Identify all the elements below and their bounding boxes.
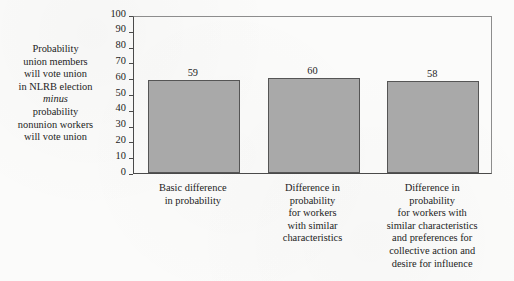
y-axis-caption-line: in NLRB election <box>2 81 109 94</box>
y-axis-tick-label: 0 <box>121 167 126 177</box>
y-axis-caption-line: nonunion workers <box>2 119 109 132</box>
y-axis-tick-label: 40 <box>116 103 126 113</box>
chart-page: Probabilityunion memberswill vote unioni… <box>0 0 514 281</box>
y-axis-caption-line: will vote union <box>2 68 109 81</box>
y-axis-tick-label: 50 <box>116 88 126 98</box>
x-axis-category-label-line: and preferences for <box>352 232 512 245</box>
x-axis-category-label-line: desire for influence <box>352 258 512 271</box>
y-axis-tick-label: 30 <box>116 119 126 129</box>
plot-area <box>133 16 492 174</box>
bar-value-label: 60 <box>267 66 359 76</box>
x-axis-category-label-line: probability <box>352 195 512 208</box>
bar <box>268 78 360 173</box>
x-axis-category-label-line: for workers with <box>352 207 512 220</box>
y-axis-caption-line: minus <box>2 93 109 106</box>
y-axis-ticks: 0102030405060708090100 <box>101 16 133 174</box>
y-axis-tick-label: 80 <box>116 40 126 50</box>
y-axis-tick-label: 70 <box>116 56 126 66</box>
x-axis-category-label-line: Difference in <box>352 182 512 195</box>
y-axis-caption: Probabilityunion memberswill vote unioni… <box>2 43 109 144</box>
y-axis-tick-mark <box>129 174 133 175</box>
bar-value-label: 58 <box>386 69 478 79</box>
x-axis-category-label-line: collective action and <box>352 245 512 258</box>
bar <box>148 80 240 173</box>
y-axis-caption-line: union members <box>2 56 109 69</box>
x-axis-category-label-line: similar characteristics <box>352 220 512 233</box>
x-axis-category-label: Difference inprobabilityfor workers with… <box>352 182 512 270</box>
y-axis-caption-line: probability <box>2 106 109 119</box>
bar-value-label: 59 <box>147 68 239 78</box>
y-axis-tick-label: 100 <box>110 9 126 19</box>
y-axis-tick-label: 20 <box>116 135 126 145</box>
y-axis-tick-label: 60 <box>116 72 126 82</box>
y-axis-caption-line: will vote union <box>2 131 109 144</box>
y-axis-tick-label: 10 <box>116 151 126 161</box>
y-axis-tick-label: 90 <box>116 24 126 34</box>
bar <box>387 81 479 173</box>
y-axis-caption-line: Probability <box>2 43 109 56</box>
